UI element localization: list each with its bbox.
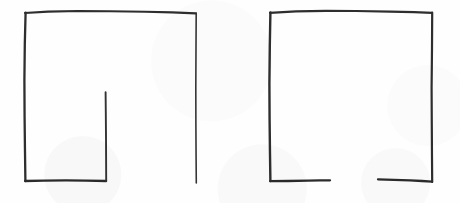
figures-svg (0, 0, 460, 203)
right-figure-bottom-right-segment (378, 179, 432, 181)
left-figure-top-edge (25, 11, 196, 13)
right-figure-left-edge (269, 12, 270, 181)
right-figure-right-edge (432, 13, 433, 182)
right-figure-top-edge (270, 11, 432, 13)
left-figure (24, 11, 196, 183)
left-figure-right-edge (196, 13, 197, 183)
right-figure (269, 11, 432, 182)
left-figure-internal-vertical-line (106, 92, 107, 181)
right-figure-bottom-left-segment (270, 180, 330, 181)
left-figure-bottom-edge (25, 180, 106, 181)
scanned-figure-canvas (0, 0, 460, 203)
left-figure-left-edge (24, 13, 25, 181)
